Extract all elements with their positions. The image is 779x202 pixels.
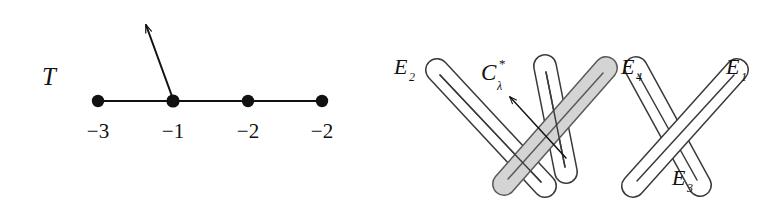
capsule-label-E3-subscript: 3 xyxy=(686,181,693,195)
graph-weight-v3: −2 xyxy=(237,119,259,143)
capsule-label-E1-subscript: 1 xyxy=(741,70,747,84)
graph-vertex-v2 xyxy=(166,94,179,107)
capsule-label-E1-base: E xyxy=(725,54,740,79)
capsule-label-E4-base: E xyxy=(620,54,635,79)
curve-label-subscript: λ xyxy=(496,79,502,93)
graph-vertex-weights: −3 −1 −2 −2 xyxy=(87,119,333,143)
graph-weight-v2: −1 xyxy=(162,119,184,143)
capsule-E2-centerline-overlay xyxy=(440,75,541,182)
curve-label-superscript: * xyxy=(499,56,506,71)
right-diagram-group: C * λ E 2 E 4 E 1 E 3 xyxy=(393,54,747,195)
diagram-title-T: T xyxy=(42,63,58,90)
capsule-label-E3-base: E xyxy=(671,165,686,190)
graph-weight-v4: −2 xyxy=(311,119,333,143)
capsule-label-E2: E 2 xyxy=(393,54,415,84)
capsule-label-E4-subscript: 4 xyxy=(636,70,642,84)
left-diagram-group: T −3 −1 −2 −2 xyxy=(42,25,333,143)
graph-weight-v1: −3 xyxy=(87,119,109,143)
math-figure-root: T −3 −1 −2 −2 xyxy=(0,0,779,202)
graph-vertex-v3 xyxy=(242,95,254,107)
capsule-label-E2-base: E xyxy=(393,54,408,79)
curve-label-base: C xyxy=(481,60,497,85)
graph-vertex-v4 xyxy=(316,95,328,107)
capsule-label-E2-subscript: 2 xyxy=(409,70,415,84)
graph-vertex-v1 xyxy=(92,95,104,107)
graph-branch-arrow xyxy=(146,25,173,99)
